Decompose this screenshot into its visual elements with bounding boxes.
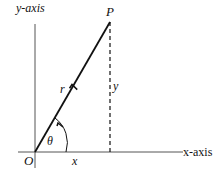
angle-arc [55, 118, 67, 152]
polar-coordinate-diagram: y-axis x-axis P O r θ x y [0, 0, 215, 180]
x-axis-label: x-axis [183, 145, 213, 159]
y-component-label: y [112, 79, 119, 93]
radius-vector [35, 22, 110, 152]
point-label: P [105, 4, 114, 19]
radius-label: r [60, 82, 65, 96]
x-component-label: x [71, 154, 78, 168]
angle-label: θ [47, 134, 53, 148]
y-axis-label: y-axis [15, 1, 45, 15]
origin-label: O [24, 153, 34, 168]
